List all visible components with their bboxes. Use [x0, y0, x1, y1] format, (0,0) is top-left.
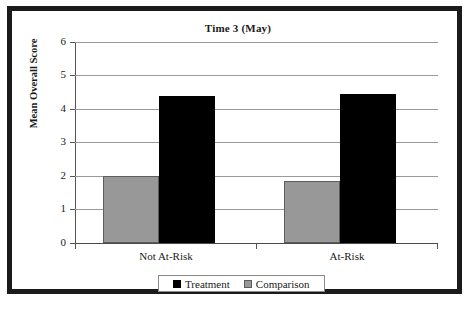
legend-swatch-treatment-icon: [173, 280, 181, 288]
y-tick-label-6: 6: [44, 35, 66, 47]
legend-label-comparison: Comparison: [256, 278, 310, 290]
bar-at-risk-comparison: [284, 181, 340, 243]
chart-figure: Time 3 (May) Mean Overall Score 6 5 4 3 …: [0, 0, 476, 318]
y-tick-label-0: 0: [44, 236, 66, 248]
bar-not-at-risk-treatment: [159, 96, 215, 243]
x-tick-mark-mid: [256, 244, 257, 249]
x-tick-mark-start: [75, 244, 76, 249]
x-category-label-at-risk: At-Risk: [277, 250, 417, 262]
chart-legend: Treatment Comparison: [158, 275, 325, 292]
bar-at-risk-treatment: [340, 94, 396, 243]
legend-entry-comparison[interactable]: Comparison: [244, 278, 310, 290]
y-tick-label-1: 1: [44, 202, 66, 214]
y-tick-label-3: 3: [44, 135, 66, 147]
legend-swatch-comparison-icon: [244, 280, 252, 288]
gridline-5: [75, 75, 438, 76]
y-tick-label-4: 4: [44, 102, 66, 114]
legend-label-treatment: Treatment: [185, 278, 230, 290]
y-tick-label-5: 5: [44, 68, 66, 80]
legend-entry-treatment[interactable]: Treatment: [173, 278, 230, 290]
x-category-label-not-at-risk: Not At-Risk: [96, 250, 236, 262]
gridline-6: [75, 42, 438, 43]
plot-area: [75, 42, 438, 243]
chart-title: Time 3 (May): [0, 22, 476, 34]
y-tick-label-2: 2: [44, 169, 66, 181]
bar-not-at-risk-comparison: [103, 176, 159, 243]
x-tick-mark-end: [437, 244, 438, 249]
y-axis-title: Mean Overall Score: [28, 19, 39, 149]
